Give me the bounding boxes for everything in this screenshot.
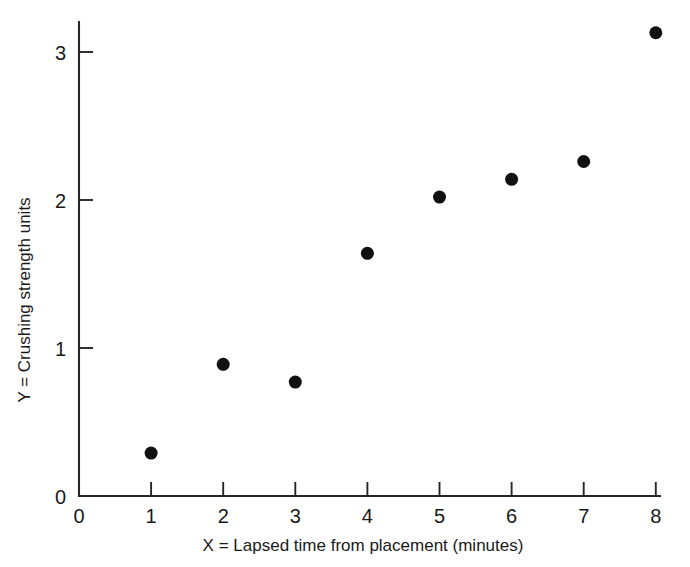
scatter-plot-figure: 123 012345678 0 X = Lapsed time from pla…: [0, 0, 690, 567]
data-point: [289, 376, 302, 389]
data-point: [217, 358, 230, 371]
x-tick-label-0: 0: [73, 505, 84, 527]
data-point: [649, 26, 662, 39]
x-tick-label-4: 4: [362, 505, 373, 527]
y-axis-origin-label: 0: [55, 486, 66, 508]
x-axis-title: X = Lapsed time from placement (minutes): [203, 536, 524, 555]
chart-canvas: 123 012345678 0 X = Lapsed time from pla…: [0, 0, 690, 567]
y-axis-title: Y = Crushing strength units: [15, 197, 34, 402]
x-tick-label-6: 6: [506, 505, 517, 527]
x-tick-label-7: 7: [578, 505, 589, 527]
y-axis-ticks: 123: [55, 42, 93, 360]
data-point: [433, 191, 446, 204]
data-point: [361, 247, 374, 260]
x-axis-ticks: 012345678: [73, 482, 661, 527]
y-tick-label-1: 1: [55, 338, 66, 360]
data-point: [505, 173, 518, 186]
x-tick-label-2: 2: [218, 505, 229, 527]
x-tick-label-8: 8: [650, 505, 661, 527]
data-point-series: [145, 26, 663, 459]
y-tick-label-3: 3: [55, 42, 66, 64]
data-point: [577, 155, 590, 168]
y-tick-label-2: 2: [55, 190, 66, 212]
x-tick-label-3: 3: [290, 505, 301, 527]
x-tick-label-1: 1: [146, 505, 157, 527]
x-tick-label-5: 5: [434, 505, 445, 527]
data-point: [145, 447, 158, 460]
